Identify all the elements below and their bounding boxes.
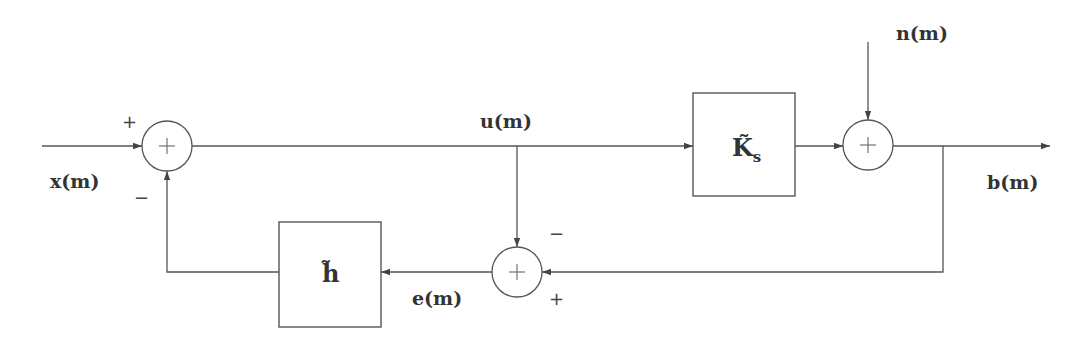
noise-summing-junction xyxy=(843,120,893,170)
control-label: u(m) xyxy=(480,110,532,132)
input-summing-junction xyxy=(142,121,192,171)
input-minus-sign: − xyxy=(134,187,149,208)
plant-block: K̃s xyxy=(693,93,795,196)
error-summing-junction xyxy=(492,247,542,297)
input-label: x(m) xyxy=(50,170,99,192)
noise-label: n(m) xyxy=(896,22,948,44)
filter-feedback-wire xyxy=(167,171,279,272)
input-plus-sign: + xyxy=(122,111,137,132)
error-minus-sign: − xyxy=(549,223,564,244)
filter-block: h̃ xyxy=(279,222,381,327)
block-diagram: K̃s h̃ + − − + x(m) u(m) n(m) b(m) e(m) xyxy=(0,0,1087,351)
error-label: e(m) xyxy=(412,287,462,309)
error-plus-sign: + xyxy=(549,288,564,309)
filter-symbol: h̃ xyxy=(321,259,340,288)
output-label: b(m) xyxy=(987,171,1038,193)
